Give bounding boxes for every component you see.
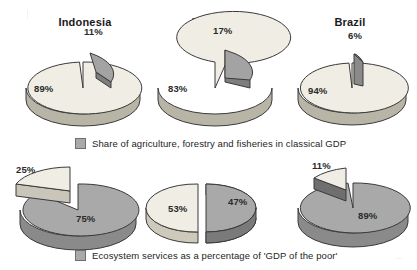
pie-value-indonesia-top-minor: 11% bbox=[84, 26, 103, 37]
pie-value-brazil-top-major: 94% bbox=[308, 85, 327, 96]
legend-bottom-label: Ecosystem services as a percentage of 'G… bbox=[92, 250, 338, 261]
legend-top: Share of agriculture, forestry and fishe… bbox=[75, 138, 346, 149]
figure-canvas: Indonesia India Brazil 11% 89% 17% bbox=[0, 0, 417, 270]
legend-bottom: Ecosystem services as a percentage of 'G… bbox=[75, 250, 338, 261]
pie-value-indonesia-bottom-minor: 25% bbox=[16, 164, 35, 175]
pie-value-brazil-bottom-major: 89% bbox=[358, 210, 377, 221]
pie-half-gray bbox=[206, 184, 256, 243]
pie-value-india-bottom-major-light: 53% bbox=[168, 203, 187, 214]
pie-value-india-top-minor: 17% bbox=[213, 25, 232, 36]
pie-chart-india-bottom bbox=[140, 172, 280, 252]
scan-artifact bbox=[396, 258, 402, 259]
pie-slice-minor-exploded bbox=[354, 54, 363, 86]
pie-value-india-bottom-major-gray: 47% bbox=[228, 196, 247, 207]
legend-top-label: Share of agriculture, forestry and fishe… bbox=[92, 138, 346, 149]
scan-artifact bbox=[27, 10, 28, 19]
pie-value-indonesia-top-major: 89% bbox=[34, 83, 53, 94]
pie-value-brazil-top-minor: 6% bbox=[348, 30, 362, 41]
pie-value-indonesia-bottom-major: 75% bbox=[76, 213, 95, 224]
legend-swatch-icon bbox=[75, 138, 86, 149]
pie-value-india-top-major: 83% bbox=[168, 83, 187, 94]
pie-value-brazil-bottom-minor: 11% bbox=[312, 160, 331, 171]
chart-title-brazil: Brazil bbox=[305, 16, 395, 28]
legend-swatch-icon bbox=[75, 250, 86, 261]
pie-chart-brazil-bottom bbox=[288, 162, 417, 248]
